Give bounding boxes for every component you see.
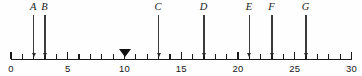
axis-tick-label-15: 15 xyxy=(176,63,187,74)
axis-tick-28 xyxy=(328,54,329,59)
axis-tick-29 xyxy=(340,54,341,59)
arrow-head-F xyxy=(270,53,274,57)
axis-tick-22 xyxy=(260,54,261,59)
axis-tick-20 xyxy=(237,52,238,59)
axis-tick-14 xyxy=(169,54,170,59)
axis-tick-16 xyxy=(192,54,193,59)
axis-tick-18 xyxy=(215,54,216,59)
arrow-label-G: G xyxy=(302,1,310,12)
arrow-shaft-A xyxy=(33,15,34,54)
arrow-head-G xyxy=(304,53,308,57)
arrow-shaft-B xyxy=(44,15,45,54)
axis-tick-27 xyxy=(317,54,318,59)
axis-tick-25 xyxy=(294,52,295,59)
axis-tick-0 xyxy=(10,52,11,59)
arrow-label-E: E xyxy=(246,1,252,12)
axis-tick-label-30: 30 xyxy=(346,63,357,74)
axis-tick-15 xyxy=(181,52,182,59)
axis-line xyxy=(11,59,352,61)
arrow-head-C xyxy=(157,53,161,57)
axis-tick-19 xyxy=(226,54,227,59)
axis-tick-12 xyxy=(147,54,148,59)
axis-tick-label-25: 25 xyxy=(289,63,300,74)
axis-tick-24 xyxy=(283,54,284,59)
axis-tick-label-0: 0 xyxy=(8,63,13,74)
axis-tick-11 xyxy=(135,54,136,59)
triangle-marker xyxy=(119,49,131,57)
axis-tick-7 xyxy=(90,54,91,59)
arrow-label-C: C xyxy=(155,1,162,12)
arrow-head-A xyxy=(32,53,36,57)
axis-tick-6 xyxy=(78,54,79,59)
arrow-label-A: A xyxy=(30,1,36,12)
number-line-figure: 051015202530ABCDEFG xyxy=(0,0,362,76)
arrow-label-F: F xyxy=(268,1,274,12)
axis-tick-4 xyxy=(56,54,57,59)
arrow-label-B: B xyxy=(41,1,47,12)
axis-tick-label-5: 5 xyxy=(65,63,70,74)
axis-tick-label-20: 20 xyxy=(233,63,244,74)
arrow-label-D: D xyxy=(200,1,208,12)
arrow-shaft-G xyxy=(305,15,306,54)
axis-tick-8 xyxy=(101,54,102,59)
arrow-head-D xyxy=(202,53,206,57)
arrow-shaft-E xyxy=(249,15,250,54)
axis-tick-5 xyxy=(67,52,68,59)
axis-tick-label-10: 10 xyxy=(119,63,130,74)
arrow-shaft-F xyxy=(271,15,272,54)
arrow-head-E xyxy=(247,53,251,57)
arrow-head-B xyxy=(43,53,47,57)
axis-tick-9 xyxy=(113,54,114,59)
axis-tick-1 xyxy=(22,54,23,59)
axis-tick-30 xyxy=(351,52,352,59)
arrow-shaft-C xyxy=(158,15,159,54)
arrow-shaft-D xyxy=(203,15,204,54)
